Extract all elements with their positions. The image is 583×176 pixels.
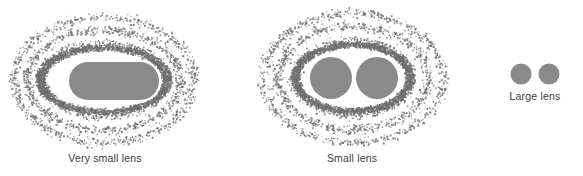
lens-stipple-svg	[0, 0, 583, 176]
panel-label-small-lens: Small lens	[327, 152, 377, 164]
solid-core-circle-2	[539, 64, 560, 85]
solid-core-circle-1	[310, 57, 352, 99]
solid-core-circle-2	[356, 57, 398, 99]
panel-label-large-lens: Large lens	[510, 90, 561, 102]
diagram-canvas	[0, 0, 583, 176]
panel-label-very-small-lens: Very small lens	[68, 152, 141, 164]
solid-core-circle-1	[511, 64, 532, 85]
solid-core-stadium	[69, 62, 159, 100]
